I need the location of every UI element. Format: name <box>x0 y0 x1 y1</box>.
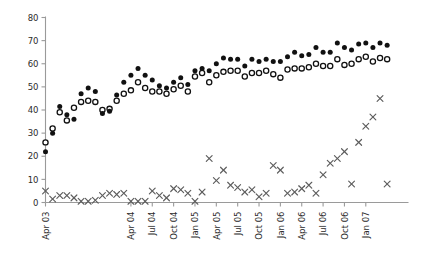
data-point-open-circle <box>192 74 197 79</box>
data-point-filled-circle <box>50 131 55 136</box>
data-point-open-circle <box>157 89 162 94</box>
x-tick-label: Jul 05 <box>233 212 243 237</box>
data-point-cross <box>285 190 291 196</box>
data-point-cross <box>249 187 255 193</box>
data-point-filled-circle <box>64 112 69 117</box>
x-tick-label: Apr 06 <box>297 212 307 240</box>
data-point-filled-circle <box>178 75 183 80</box>
data-point-filled-circle <box>370 45 375 50</box>
data-point-filled-circle <box>157 83 162 88</box>
data-point-cross <box>121 190 127 196</box>
x-tick-label: Oct 05 <box>254 212 264 240</box>
data-point-cross <box>114 192 120 198</box>
data-point-open-circle <box>356 57 361 62</box>
chart-canvas: 01020304050607080Apr 03Apr 04Jul 04Oct 0… <box>0 0 431 263</box>
data-point-open-circle <box>249 70 254 75</box>
data-point-cross <box>313 190 319 196</box>
data-point-filled-circle <box>214 61 219 66</box>
data-point-open-circle <box>285 67 290 72</box>
data-point-filled-circle <box>71 117 76 122</box>
data-point-open-circle <box>299 66 304 71</box>
x-tick-label: Jul 04 <box>147 212 157 237</box>
data-point-filled-circle <box>257 59 262 64</box>
data-point-filled-circle <box>107 109 112 114</box>
data-point-open-circle <box>50 126 55 131</box>
data-point-cross <box>370 114 376 120</box>
data-point-filled-circle <box>121 80 126 85</box>
data-point-open-circle <box>57 110 62 115</box>
data-point-open-circle <box>135 80 140 85</box>
data-point-cross <box>178 187 184 193</box>
data-point-open-circle <box>228 68 233 73</box>
data-point-open-circle <box>207 80 212 85</box>
data-point-open-circle <box>221 69 226 74</box>
data-point-filled-circle <box>93 89 98 94</box>
data-point-cross <box>149 188 155 194</box>
data-point-open-circle <box>43 140 48 145</box>
data-point-open-circle <box>214 73 219 78</box>
data-point-open-circle <box>64 118 69 123</box>
data-point-cross <box>100 193 106 199</box>
y-tick-label: 30 <box>28 128 39 138</box>
data-point-cross <box>270 163 276 169</box>
data-point-filled-circle <box>321 50 326 55</box>
data-point-filled-circle <box>242 64 247 69</box>
x-tick-label: Apr 03 <box>41 212 51 240</box>
data-point-open-circle <box>328 63 333 68</box>
data-point-filled-circle <box>385 43 390 48</box>
data-point-filled-circle <box>328 50 333 55</box>
data-point-open-circle <box>114 98 119 103</box>
data-point-filled-circle <box>192 68 197 73</box>
data-point-filled-circle <box>150 77 155 82</box>
data-point-cross <box>327 160 333 166</box>
data-point-cross <box>85 198 91 204</box>
data-point-open-circle <box>363 54 368 59</box>
data-point-open-circle <box>335 57 340 62</box>
data-point-cross <box>213 178 219 184</box>
data-point-filled-circle <box>228 57 233 62</box>
data-point-open-circle <box>242 74 247 79</box>
data-point-filled-circle <box>143 73 148 78</box>
y-tick-label: 60 <box>28 59 39 69</box>
x-tick-label: Apr 05 <box>212 212 222 240</box>
data-point-cross <box>235 185 241 191</box>
y-tick-label: 0 <box>33 198 38 208</box>
data-point-filled-circle <box>207 68 212 73</box>
data-point-cross <box>71 195 77 201</box>
y-tick-label: 50 <box>28 82 39 92</box>
data-point-cross <box>206 156 212 162</box>
data-point-cross <box>50 196 56 202</box>
data-point-open-circle <box>349 61 354 66</box>
data-point-filled-circle <box>306 52 311 57</box>
data-point-filled-circle <box>271 59 276 64</box>
data-point-cross <box>263 190 269 196</box>
data-point-cross <box>320 172 326 178</box>
data-point-filled-circle <box>363 40 368 45</box>
data-point-filled-circle <box>349 47 354 52</box>
data-point-cross <box>299 186 305 192</box>
data-point-filled-circle <box>264 57 269 62</box>
data-point-cross <box>171 186 177 192</box>
data-point-cross <box>377 96 383 102</box>
x-tick-label: Jan 06 <box>276 212 286 240</box>
data-point-open-circle <box>306 65 311 70</box>
data-point-cross <box>142 198 148 204</box>
data-point-filled-circle <box>79 91 84 96</box>
data-point-filled-circle <box>249 57 254 62</box>
data-point-filled-circle <box>278 59 283 64</box>
x-tick-label: Jul 06 <box>318 212 328 237</box>
data-point-cross <box>292 189 298 195</box>
data-point-cross <box>277 167 283 173</box>
data-point-filled-circle <box>335 40 340 45</box>
data-point-cross <box>199 189 205 195</box>
data-point-open-circle <box>121 91 126 96</box>
data-point-cross <box>242 189 248 195</box>
data-point-cross <box>221 167 227 173</box>
data-point-cross <box>356 139 362 145</box>
data-point-cross <box>349 181 355 187</box>
y-tick-label: 20 <box>28 151 39 161</box>
data-point-filled-circle <box>171 80 176 85</box>
data-point-filled-circle <box>185 82 190 87</box>
data-point-filled-circle <box>100 111 105 116</box>
data-point-filled-circle <box>164 86 169 91</box>
